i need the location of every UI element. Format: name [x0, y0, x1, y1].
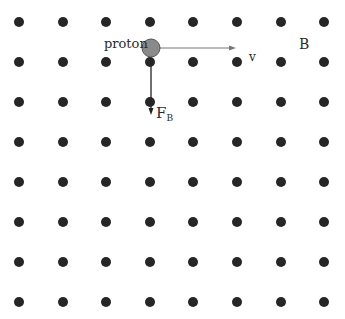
field-dot	[232, 257, 242, 267]
field-dot	[101, 97, 111, 107]
field-dot	[14, 97, 24, 107]
field-dot	[319, 57, 329, 67]
field-dot	[188, 257, 198, 267]
field-dot	[319, 297, 329, 307]
force-label: FB	[156, 104, 173, 123]
field-dot	[145, 297, 155, 307]
field-dot	[319, 257, 329, 267]
field-dot	[276, 297, 286, 307]
field-dot	[188, 137, 198, 147]
field-dot	[232, 297, 242, 307]
field-dot	[58, 97, 68, 107]
field-dot	[14, 137, 24, 147]
field-dot	[101, 17, 111, 27]
field-dot	[58, 17, 68, 27]
field-dot	[319, 17, 329, 27]
field-dot	[145, 257, 155, 267]
field-dot	[145, 57, 155, 67]
field-dot	[145, 217, 155, 227]
field-dot	[58, 297, 68, 307]
field-dot	[58, 177, 68, 187]
field-dot	[101, 137, 111, 147]
field-dot	[101, 257, 111, 267]
field-dot	[14, 217, 24, 227]
magnetic-field-dot-grid	[14, 17, 329, 307]
field-dot	[101, 217, 111, 227]
field-dot	[232, 57, 242, 67]
field-dot	[58, 57, 68, 67]
field-dot	[276, 17, 286, 27]
field-dot	[319, 137, 329, 147]
field-dot	[188, 57, 198, 67]
field-dot	[319, 97, 329, 107]
field-dot	[319, 217, 329, 227]
field-dot	[276, 257, 286, 267]
field-dot	[58, 137, 68, 147]
field-dot	[319, 177, 329, 187]
field-dot	[232, 217, 242, 227]
field-dot	[145, 177, 155, 187]
field-dot	[232, 17, 242, 27]
field-dot	[276, 97, 286, 107]
proton-label: proton	[104, 36, 148, 51]
field-dot	[145, 17, 155, 27]
field-dot	[276, 217, 286, 227]
force-subscript: B	[166, 113, 173, 123]
field-label: B	[299, 36, 309, 52]
field-dot	[14, 17, 24, 27]
field-dot	[188, 297, 198, 307]
field-dot	[14, 177, 24, 187]
field-dot	[58, 217, 68, 227]
field-dot	[188, 17, 198, 27]
field-dot	[276, 177, 286, 187]
magnetic-force-diagram: proton v B FB	[0, 0, 345, 319]
field-dot	[14, 297, 24, 307]
field-dot	[232, 137, 242, 147]
field-dot	[188, 97, 198, 107]
field-dot	[14, 57, 24, 67]
field-dot	[145, 137, 155, 147]
field-dot	[101, 177, 111, 187]
field-dot	[232, 177, 242, 187]
field-dot	[276, 137, 286, 147]
velocity-label: v	[248, 50, 256, 64]
field-dot	[101, 57, 111, 67]
field-dot	[232, 97, 242, 107]
field-dot	[101, 297, 111, 307]
velocity-arrow	[160, 46, 236, 51]
field-dot	[145, 97, 155, 107]
field-dot	[14, 257, 24, 267]
field-dot	[58, 257, 68, 267]
field-dot	[188, 217, 198, 227]
field-dot	[188, 177, 198, 187]
field-dot	[276, 57, 286, 67]
